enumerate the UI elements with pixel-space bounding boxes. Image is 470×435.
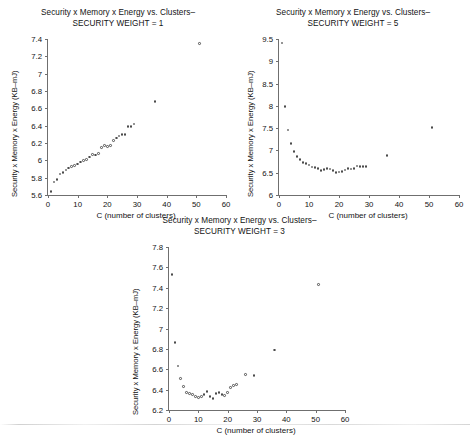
x-tick-mark: [137, 195, 138, 198]
x-tick-mark: [196, 195, 197, 198]
x-tick-mark: [345, 410, 346, 413]
x-tick-label: 40: [282, 415, 291, 424]
data-point: [431, 126, 434, 129]
data-point: [235, 383, 238, 386]
data-point: [133, 123, 136, 126]
x-tick-mark: [107, 195, 108, 198]
data-point: [329, 168, 332, 171]
data-point: [198, 42, 201, 45]
y-tick-label: 6.8: [16, 87, 42, 96]
y-tick-mark: [276, 150, 279, 151]
y-tick-mark: [45, 56, 48, 57]
y-tick-label: 7: [16, 69, 42, 78]
axes: 66.577.588.599.50102030405060: [278, 39, 459, 196]
x-tick-mark: [228, 410, 229, 413]
x-tick-label: 0: [167, 415, 171, 424]
data-point: [308, 164, 311, 167]
data-point: [311, 166, 314, 169]
data-point: [97, 152, 100, 155]
y-tick-label: 7: [247, 146, 273, 155]
data-point: [127, 125, 130, 128]
y-tick-label: 6: [247, 191, 273, 200]
y-tick-label: 6: [16, 156, 42, 165]
y-tick-label: 8: [247, 101, 273, 110]
data-point: [203, 393, 206, 396]
data-point: [130, 125, 133, 128]
data-point: [359, 165, 362, 168]
y-tick-mark: [276, 39, 279, 40]
y-tick-label: 9.5: [247, 35, 273, 44]
data-point: [177, 365, 180, 368]
data-point: [284, 105, 287, 108]
x-tick-mark: [78, 195, 79, 198]
chart-title-line1: Security x Memory x Energy vs. Clusters–: [276, 8, 430, 17]
data-point: [215, 392, 218, 395]
x-tick-mark: [286, 410, 287, 413]
data-point: [296, 155, 299, 158]
y-tick-label: 6.4: [16, 121, 42, 130]
data-point: [53, 181, 56, 184]
y-tick-label: 6.2: [16, 139, 42, 148]
x-tick-mark: [257, 410, 258, 413]
data-point: [326, 167, 329, 170]
x-tick-mark: [459, 195, 460, 198]
y-tick-mark: [45, 126, 48, 127]
y-tick-label: 7.4: [137, 283, 163, 292]
y-tick-mark: [276, 106, 279, 107]
y-tick-label: 9: [247, 57, 273, 66]
x-tick-mark: [226, 195, 227, 198]
x-tick-mark: [48, 195, 49, 198]
data-point: [299, 158, 302, 161]
y-tick-mark: [166, 267, 169, 268]
x-tick-label: 60: [341, 415, 350, 424]
x-tick-label: 0: [46, 200, 50, 209]
data-point: [62, 171, 65, 174]
x-tick-label: 20: [223, 415, 232, 424]
x-tick-mark: [429, 195, 430, 198]
data-point: [344, 169, 347, 172]
x-tick-label: 40: [395, 200, 404, 209]
x-tick-label: 60: [455, 200, 464, 209]
data-point: [115, 137, 118, 140]
y-tick-mark: [166, 288, 169, 289]
y-tick-label: 6.2: [137, 406, 163, 415]
data-point: [317, 283, 320, 286]
y-tick-mark: [166, 349, 169, 350]
y-tick-mark: [166, 308, 169, 309]
chart-panel-weight-1: Security x Memory x Energy vs. Clusters–…: [0, 0, 236, 205]
chart-title-line1: Security x Memory x Energy vs. Clusters–: [41, 8, 195, 17]
data-point: [179, 377, 182, 380]
x-tick-label: 50: [311, 415, 320, 424]
y-tick-label: 6.6: [16, 104, 42, 113]
x-tick-mark: [198, 410, 199, 413]
y-tick-label: 6.5: [247, 168, 273, 177]
y-tick-label: 7.2: [137, 304, 163, 313]
y-tick-mark: [45, 178, 48, 179]
data-point: [293, 150, 296, 153]
chart-panel-weight-5: Security x Memory x Energy vs. Clusters–…: [236, 0, 470, 205]
data-point: [338, 171, 341, 174]
data-point: [314, 166, 317, 169]
data-point: [209, 395, 212, 398]
data-point: [281, 42, 284, 45]
data-point: [290, 142, 293, 145]
data-point: [356, 165, 359, 168]
x-tick-mark: [169, 410, 170, 413]
x-tick-mark: [369, 195, 370, 198]
data-point: [350, 168, 353, 171]
data-point: [154, 100, 157, 103]
x-tick-mark: [316, 410, 317, 413]
chart-title-line2: SECURITY WEIGHT = 3: [117, 226, 362, 237]
data-point: [85, 158, 88, 161]
y-tick-mark: [166, 247, 169, 248]
x-tick-label: 10: [73, 200, 82, 209]
data-point: [320, 169, 323, 172]
y-tick-label: 7.2: [16, 52, 42, 61]
data-point: [56, 178, 59, 181]
data-point: [50, 190, 53, 193]
y-tick-label: 6.8: [137, 344, 163, 353]
y-tick-mark: [45, 74, 48, 75]
data-point: [59, 173, 62, 176]
axes: 5.65.866.26.46.66.877.27.40102030405060: [47, 39, 226, 196]
data-point: [174, 341, 177, 344]
